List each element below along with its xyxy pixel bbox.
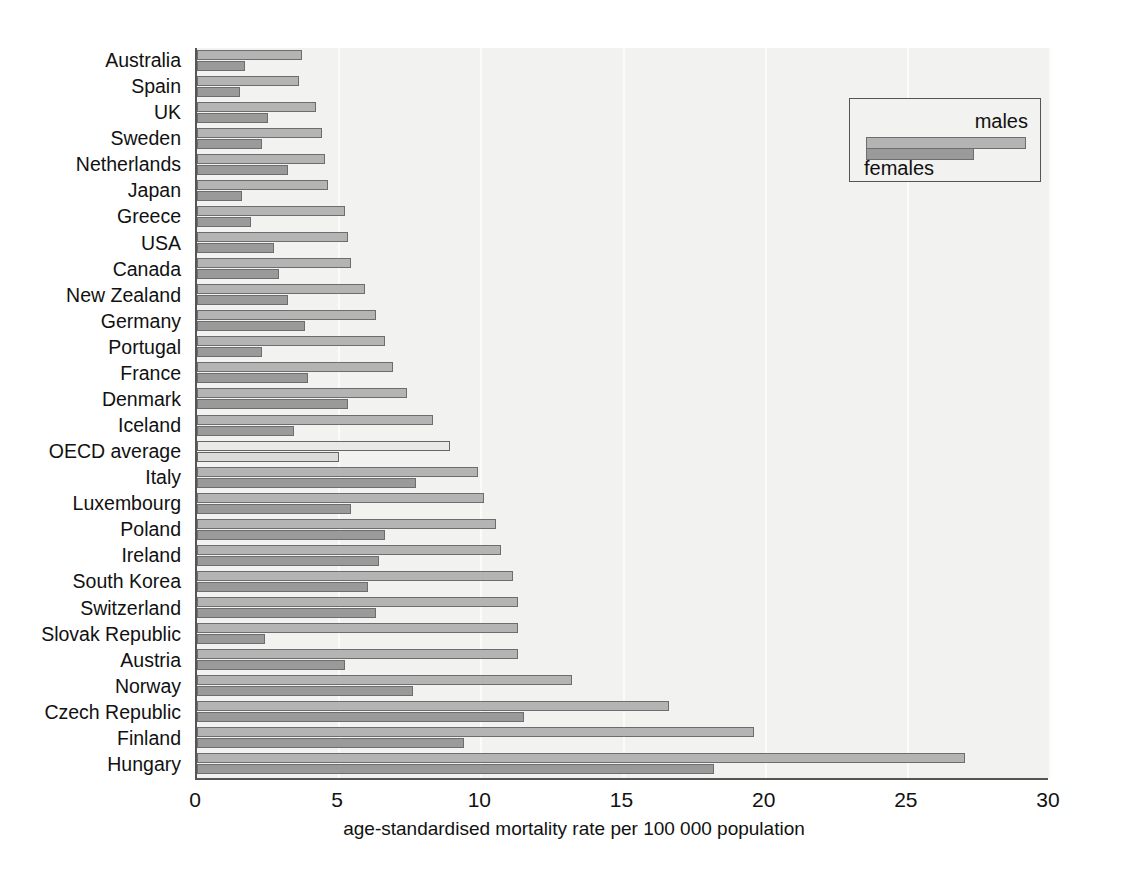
y-axis-label: Ireland <box>0 545 181 565</box>
y-axis-label: Iceland <box>0 415 181 435</box>
bar-males <box>197 727 754 737</box>
y-axis-category-labels: AustraliaSpainUKSwedenNetherlandsJapanGr… <box>0 48 188 778</box>
bar-row <box>197 309 1050 335</box>
bar-males <box>197 206 345 216</box>
bar-row <box>197 726 1050 752</box>
cropped-caption-remnant <box>0 0 1148 10</box>
x-tick-label: 25 <box>894 788 917 812</box>
legend-label-females: females <box>864 157 934 180</box>
y-axis-label: UK <box>0 102 181 122</box>
bar-males <box>197 675 572 685</box>
bar-males <box>197 649 518 659</box>
bar-females <box>197 660 345 670</box>
bar-row <box>197 491 1050 517</box>
bar-females <box>197 295 288 305</box>
bar-row <box>197 335 1050 361</box>
bar-females <box>197 452 339 462</box>
x-tick-label: 20 <box>752 788 775 812</box>
bar-males <box>197 701 669 711</box>
bar-males <box>197 441 450 451</box>
bar-females <box>197 504 351 514</box>
y-axis-label: Japan <box>0 180 181 200</box>
bar-males <box>197 493 484 503</box>
bar-males <box>197 232 348 242</box>
bar-row <box>197 257 1050 283</box>
bar-females <box>197 634 265 644</box>
bar-females <box>197 712 524 722</box>
y-axis-label: OECD average <box>0 441 181 461</box>
x-axis-title: age-standardised mortality rate per 100 … <box>0 818 1148 840</box>
legend: males females <box>849 98 1041 182</box>
bar-row <box>197 387 1050 413</box>
bar-row <box>197 413 1050 439</box>
bar-row <box>197 439 1050 465</box>
bar-females <box>197 608 376 618</box>
bar-row <box>197 543 1050 569</box>
bar-males <box>197 50 302 60</box>
bar-row <box>197 465 1050 491</box>
bar-row <box>197 74 1050 100</box>
bar-males <box>197 597 518 607</box>
bar-males <box>197 284 365 294</box>
bar-males <box>197 362 393 372</box>
bar-males <box>197 154 325 164</box>
y-axis-label: Finland <box>0 728 181 748</box>
y-axis-label: Italy <box>0 467 181 487</box>
bar-row <box>197 596 1050 622</box>
bar-females <box>197 582 368 592</box>
bar-row <box>197 569 1050 595</box>
bar-females <box>197 347 262 357</box>
x-tick-label: 5 <box>331 788 343 812</box>
bar-row <box>197 674 1050 700</box>
bar-females <box>197 191 242 201</box>
y-axis-label: Czech Republic <box>0 702 181 722</box>
x-axis-line <box>195 778 1048 780</box>
bar-males <box>197 180 328 190</box>
y-axis-label: Germany <box>0 311 181 331</box>
bar-males <box>197 102 316 112</box>
bar-row <box>197 361 1050 387</box>
bar-females <box>197 113 268 123</box>
x-tick-label: 0 <box>189 788 201 812</box>
bar-females <box>197 61 245 71</box>
bar-females <box>197 373 308 383</box>
legend-label-males: males <box>975 110 1028 133</box>
bar-row <box>197 178 1050 204</box>
bar-females <box>197 556 379 566</box>
y-axis-label: France <box>0 363 181 383</box>
bar-females <box>197 165 288 175</box>
y-axis-label: Poland <box>0 519 181 539</box>
x-tick-label: 15 <box>610 788 633 812</box>
y-axis-label: New Zealand <box>0 285 181 305</box>
bar-females <box>197 478 416 488</box>
bar-females <box>197 399 348 409</box>
bar-row <box>197 700 1050 726</box>
y-axis-label: USA <box>0 233 181 253</box>
bar-females <box>197 530 385 540</box>
y-axis-label: Luxembourg <box>0 493 181 513</box>
y-axis-label: Netherlands <box>0 154 181 174</box>
bar-row <box>197 648 1050 674</box>
bar-row <box>197 231 1050 257</box>
y-axis-label: Spain <box>0 76 181 96</box>
bar-males <box>197 545 501 555</box>
bar-females <box>197 426 294 436</box>
bar-females <box>197 269 279 279</box>
bar-males <box>197 415 433 425</box>
x-tick-label: 10 <box>468 788 491 812</box>
y-axis-label: Australia <box>0 50 181 70</box>
bar-females <box>197 87 240 97</box>
bar-females <box>197 243 274 253</box>
bar-males <box>197 623 518 633</box>
y-axis-label: Denmark <box>0 389 181 409</box>
bar-males <box>197 76 299 86</box>
x-tick-label: 30 <box>1036 788 1059 812</box>
y-axis-label: Canada <box>0 259 181 279</box>
bar-females <box>197 686 413 696</box>
bar-males <box>197 519 496 529</box>
chart-figure: AustraliaSpainUKSwedenNetherlandsJapanGr… <box>0 0 1148 892</box>
bar-females <box>197 217 251 227</box>
y-axis-label: Norway <box>0 676 181 696</box>
y-axis-label: Sweden <box>0 128 181 148</box>
y-axis-label: Portugal <box>0 337 181 357</box>
